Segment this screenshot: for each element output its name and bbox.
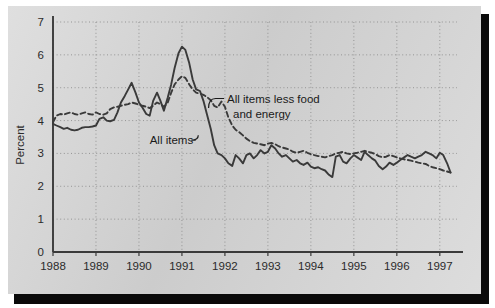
y-tick-label: 5 <box>38 82 44 94</box>
x-tick-label: 1994 <box>298 260 324 272</box>
x-tick-label: 1988 <box>40 260 66 272</box>
line-chart-svg: 0123456719881989199019911992199319941995… <box>8 6 481 294</box>
y-tick-labels: 01234567 <box>38 16 45 258</box>
gridlines <box>53 22 457 252</box>
y-tick-label: 0 <box>38 246 44 258</box>
plot-area: 0123456719881989199019911992199319941995… <box>8 6 481 294</box>
x-tick-label: 1989 <box>83 260 109 272</box>
annotation-label-core-line1: All items less food <box>227 93 320 105</box>
y-tick-label: 7 <box>38 16 44 28</box>
x-tick-label: 1992 <box>212 260 238 272</box>
y-tick-label: 1 <box>38 213 44 225</box>
y-tick-label: 6 <box>38 49 44 61</box>
x-tick-label: 1997 <box>427 260 453 272</box>
x-tick-label: 1991 <box>169 260 195 272</box>
x-tick-label: 1995 <box>341 260 367 272</box>
annotation-label-all-items: All items <box>150 134 194 146</box>
axes <box>53 16 463 252</box>
x-tick-labels: 1988198919901991199219931994199519961997 <box>40 252 452 272</box>
series-line-all-items-less-food-energy <box>53 76 451 172</box>
chart-panel: 0123456719881989199019911992199319941995… <box>8 6 481 294</box>
x-tick-label: 1996 <box>384 260 410 272</box>
y-axis-title: Percent <box>14 124 26 164</box>
chart-figure: 0123456719881989199019911992199319941995… <box>0 0 495 308</box>
x-tick-label: 1990 <box>126 260 152 272</box>
annotation-label-core-line2: and energy <box>233 108 291 120</box>
y-tick-label: 4 <box>38 115 45 127</box>
x-tick-label: 1993 <box>255 260 281 272</box>
y-tick-label: 2 <box>38 180 44 192</box>
annotations: All items less foodand energyAll items <box>150 93 320 147</box>
y-tick-label: 3 <box>38 147 44 159</box>
